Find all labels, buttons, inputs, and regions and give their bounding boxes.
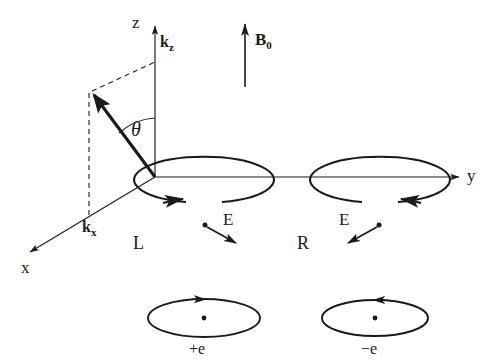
z-axis-label: z: [132, 14, 140, 31]
r-polarization-label: R: [297, 234, 309, 252]
projection-dashed-lines: [89, 62, 155, 217]
wave-vector-k: [94, 95, 155, 177]
l-e-vector: [207, 227, 236, 243]
r-polarization-ellipse: [310, 157, 450, 243]
l-center-dot: [203, 223, 208, 228]
r-center-dot: [377, 223, 382, 228]
r-e-label: E: [339, 211, 349, 228]
positive-charge-label: +e: [189, 341, 205, 357]
diagram-canvas: [0, 0, 491, 364]
r-e-vector: [348, 227, 377, 243]
l-e-label: E: [223, 211, 233, 228]
physics-diagram: z kz y x kx θ B0 L E R E +e −e: [0, 0, 491, 364]
negative-charge-center-dot: [373, 316, 378, 321]
x-axis-label: x: [21, 259, 30, 276]
negative-charge-label: −e: [361, 341, 377, 357]
theta-label: θ: [131, 119, 141, 139]
negative-charge-ellipse: [322, 300, 428, 336]
positive-charge-center-dot: [202, 316, 207, 321]
b0-label: B0: [255, 31, 272, 51]
positive-charge-ellipse: [148, 299, 260, 337]
y-axis-label: y: [467, 167, 476, 184]
kz-label: kz: [160, 34, 174, 53]
kx-label: kx: [82, 219, 96, 238]
l-polarization-label: L: [133, 234, 144, 252]
